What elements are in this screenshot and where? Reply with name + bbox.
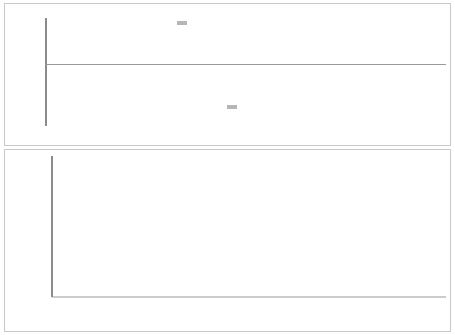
bottom-chart-svg bbox=[5, 150, 452, 331]
gdp-share-panel bbox=[4, 149, 451, 332]
callout-gdp bbox=[227, 105, 237, 109]
callout-medical-expense bbox=[177, 21, 187, 25]
growth-rate-panel bbox=[4, 3, 451, 146]
top-chart-y-axis-title bbox=[13, 30, 27, 34]
growth-rate-plot-area bbox=[5, 4, 450, 145]
bottom-chart-y-axis-title bbox=[12, 164, 26, 176]
gdp-share-plot-area bbox=[5, 150, 450, 331]
top-chart-svg bbox=[5, 4, 452, 145]
